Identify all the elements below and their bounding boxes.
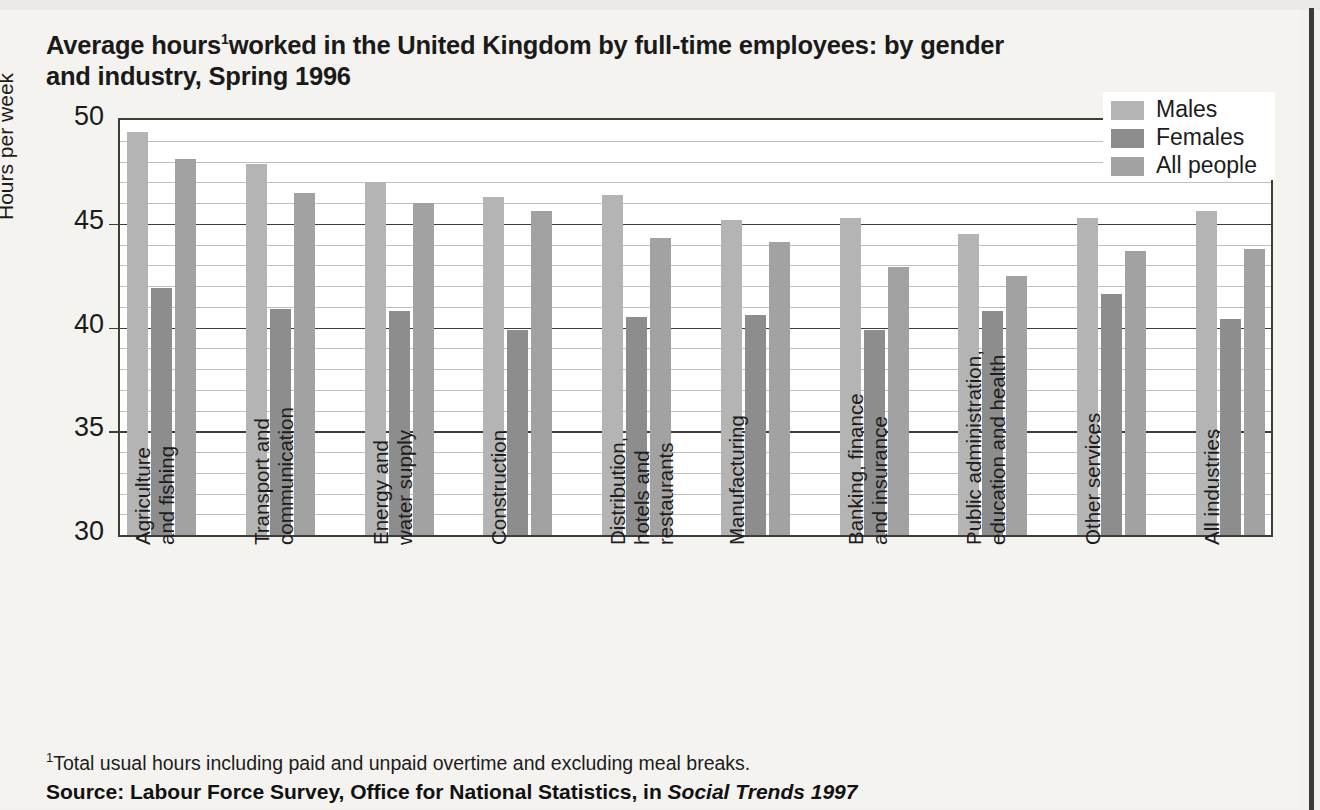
bar-all-people: [531, 211, 552, 535]
x-axis-tick-label: Other services: [1081, 413, 1105, 545]
footnote-text: Total usual hours including paid and unp…: [53, 752, 750, 774]
chart-legend: MalesFemalesAll people: [1103, 92, 1275, 180]
x-axis-tick-label: Manufacturing: [725, 415, 749, 545]
x-axis-tick-label: All industries: [1200, 429, 1224, 545]
plot-area-wrapper: 3035404550 Hours per week Agricultureand…: [0, 10, 1300, 808]
x-axis-tick-label: Energy andwater supply: [369, 430, 417, 545]
y-axis-tick-label: 45: [34, 205, 104, 236]
legend-swatch-icon: [1111, 157, 1144, 176]
y-axis-tick-label: 50: [34, 101, 104, 132]
x-axis-tick-label: Public administration,education and heal…: [962, 350, 1010, 545]
scan-artifact-top: [0, 0, 1320, 10]
legend-label: Males: [1156, 96, 1217, 123]
source-text: Labour Force Survey, Office for National…: [124, 780, 667, 803]
x-axis-tick-label: Agricultureand fishing: [131, 446, 179, 545]
legend-swatch-icon: [1111, 101, 1144, 120]
bar-all-people: [1125, 251, 1146, 535]
y-axis-tick-mark: [109, 431, 118, 433]
legend-label: Females: [1156, 124, 1244, 151]
y-axis-tick-mark: [109, 328, 118, 330]
x-axis-tick-label: Banking, financeand insurance: [844, 393, 892, 545]
x-axis-tick-label: Distribution,hotels andrestaurants: [606, 437, 678, 545]
source-label: Source:: [46, 780, 124, 803]
y-axis-tick-mark: [109, 224, 118, 226]
y-axis-tick-label: 35: [34, 412, 104, 443]
y-axis-tick-label: 30: [34, 516, 104, 547]
x-axis-tick-label: Construction: [487, 430, 511, 545]
chart-figure: Average hours1worked in the United Kingd…: [0, 10, 1300, 808]
legend-swatch-icon: [1111, 129, 1144, 148]
bar-all-people: [1244, 249, 1265, 535]
chart-source: Source: Labour Force Survey, Office for …: [46, 780, 1226, 804]
chart-footnote: 1Total usual hours including paid and un…: [46, 750, 1146, 775]
source-publication: Social Trends 1997: [668, 780, 858, 803]
y-axis-tick-label: 40: [34, 309, 104, 340]
page-right-rule: [1309, 8, 1314, 810]
x-axis-tick-label: Transport andcommunication: [250, 407, 298, 545]
legend-label: All people: [1156, 152, 1257, 179]
bar-all-people: [769, 242, 790, 535]
y-axis-label: Hours per week: [0, 73, 18, 220]
